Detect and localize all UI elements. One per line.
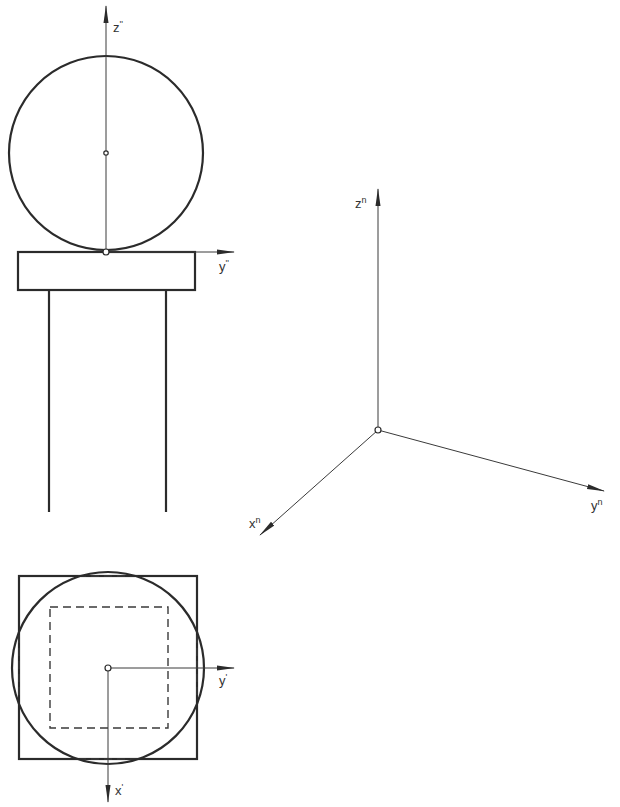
axis-y-front-label: y'' — [219, 258, 229, 274]
origin-point-axonometric — [375, 427, 381, 433]
slab-front — [18, 252, 195, 290]
axis-z-axonometric-label: zn — [355, 195, 367, 211]
axis-z-front-label: z'' — [113, 19, 123, 35]
top-view: y' x' — [12, 572, 234, 802]
axis-y-axonometric-label: yn — [591, 497, 603, 513]
axis-x-axonometric — [260, 430, 378, 535]
axis-y-axonometric — [378, 430, 604, 491]
origin-point-top — [105, 665, 111, 671]
sphere-center-point-front — [104, 151, 108, 155]
front-view: z'' y'' — [9, 6, 234, 512]
axis-y-top-label: y' — [219, 672, 228, 688]
axis-x-top-label: x' — [115, 782, 124, 798]
axonometric-axes: zn yn xn — [249, 189, 604, 535]
projection-drawing: z'' y'' y' x' zn yn xn — [0, 0, 620, 807]
axis-x-axonometric-label: xn — [249, 515, 261, 531]
origin-point-front — [103, 249, 109, 255]
